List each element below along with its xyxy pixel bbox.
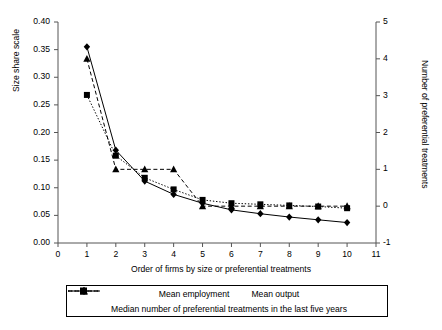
legend-label-mean-output: Mean output <box>251 289 299 299</box>
series-1 <box>84 43 351 226</box>
series-2 <box>83 55 350 209</box>
legend-row-bottom: Median number of preferential treatments… <box>67 301 387 316</box>
series-0 <box>84 92 350 211</box>
legend-label-mean-employment: Mean employment <box>159 289 230 299</box>
legend-entry-mean-employment: Mean employment <box>155 289 230 299</box>
legend-row-top: Mean employment Mean output <box>67 286 387 301</box>
chart-legend: Mean employment Mean output Median numbe… <box>66 285 388 317</box>
chart-figure: Size share scale Number of preferential … <box>0 0 442 330</box>
legend-label-median-treatments: Median number of preferential treatments… <box>111 304 347 314</box>
legend-entry-median-treatments: Median number of preferential treatments… <box>107 304 347 314</box>
legend-marker-triangle <box>67 286 101 296</box>
plot-area <box>0 0 442 330</box>
legend-entry-mean-output: Mean output <box>247 289 299 299</box>
